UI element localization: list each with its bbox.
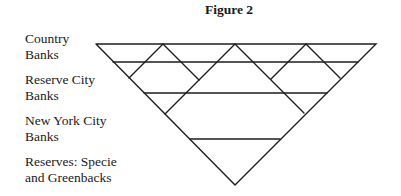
link-left-peak-left — [129, 44, 163, 78]
inverted-pyramid-diagram — [0, 0, 401, 196]
pyramid-outline — [96, 44, 376, 185]
link-center-peak-left — [165, 44, 235, 114]
link-right-peak-right — [306, 44, 340, 78]
link-center-peak-right — [235, 44, 304, 113]
